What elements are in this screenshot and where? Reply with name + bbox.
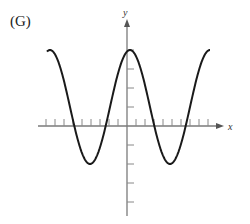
y-axis: y bbox=[122, 7, 134, 216]
y-axis-arrow-icon bbox=[124, 19, 130, 27]
x-axis-label: x bbox=[227, 121, 233, 132]
x-axis-arrow-icon bbox=[216, 123, 224, 129]
y-axis-label: y bbox=[122, 7, 128, 18]
x-axis: x bbox=[38, 119, 233, 132]
cosine-chart: x y bbox=[0, 0, 250, 224]
